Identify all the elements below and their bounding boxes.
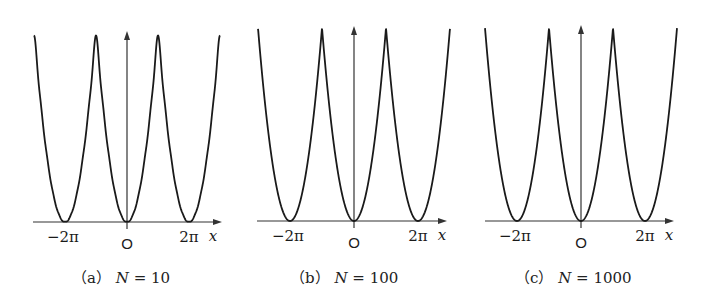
axes <box>485 25 674 228</box>
plot-c <box>0 0 711 307</box>
caption-close-paren: ） <box>538 269 553 287</box>
caption-n-var: N <box>558 269 571 287</box>
tick-label-2pi: 2π <box>635 229 654 244</box>
caption-n-value: 1000 <box>593 269 631 287</box>
panel-c: −2π O 2π x （c） N = 1000 <box>0 0 711 307</box>
tick-label-neg-2pi: −2π <box>499 229 531 244</box>
origin-label: O <box>575 235 587 250</box>
x-axis-arrow-icon <box>665 218 674 224</box>
y-axis-arrow-icon <box>578 25 584 34</box>
caption-c: （c） N = 1000 <box>515 271 632 286</box>
caption-open-paren: （ <box>515 269 530 287</box>
x-axis-label: x <box>665 228 673 243</box>
caption-equals: = <box>571 269 593 287</box>
